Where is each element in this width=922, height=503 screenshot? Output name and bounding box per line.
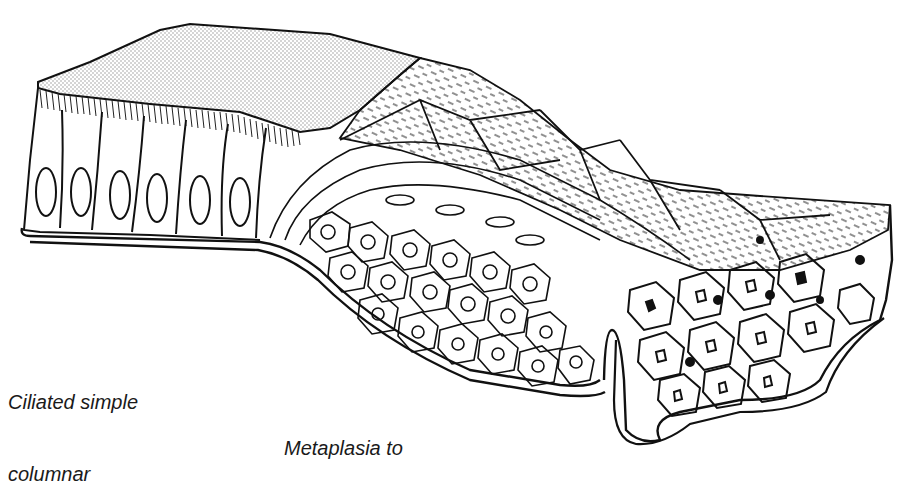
label-premalignant-change: Premalignant change to cancer in situ xyxy=(676,455,871,503)
label-ciliated-simple-columnar: Ciliated simple columnar xyxy=(8,342,138,503)
ciliated-columnar-region xyxy=(22,24,605,396)
epithelium-illustration xyxy=(0,0,922,503)
dysplastic-cells xyxy=(628,237,874,416)
squamous-cells xyxy=(310,195,594,386)
label-line: Metaplasia to xyxy=(284,436,457,460)
label-line: columnar xyxy=(8,462,138,486)
label-metaplasia-stratified-squamous: Metaplasia to stratified squamous xyxy=(284,388,457,503)
label-line: Ciliated simple xyxy=(8,390,138,414)
